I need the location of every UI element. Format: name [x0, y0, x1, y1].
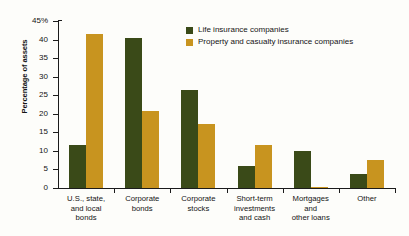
- x-axis-category-label: Corporatebonds: [110, 194, 174, 213]
- x-axis-category-label-line: Short-term: [223, 194, 287, 204]
- x-axis-separator-tick: [170, 189, 171, 193]
- bar-chart: Percentage of assets 45%4035302520151050…: [0, 0, 409, 236]
- y-axis-tick-label: 35: [39, 54, 48, 62]
- bar: [69, 145, 86, 188]
- bar: [142, 111, 159, 188]
- x-axis-category-label-line: Corporate: [166, 194, 230, 204]
- legend-swatch-icon: [186, 39, 193, 46]
- x-axis-category-label-line: U.S., state,: [54, 194, 118, 204]
- x-axis-category-label-line: bonds: [54, 213, 118, 223]
- bar-group: [69, 21, 103, 188]
- x-axis-endcap: [395, 189, 396, 193]
- x-axis-separator-tick: [114, 189, 115, 193]
- x-axis-category-label-line: and cash: [223, 213, 287, 223]
- legend-item: Life insurance companies: [186, 26, 353, 34]
- x-axis-category-label-line: and local: [54, 204, 118, 214]
- x-axis-category-label-line: investments: [223, 204, 287, 214]
- x-axis-category-label: Mortgagesandother loans: [279, 194, 343, 223]
- y-axis-title: Percentage of assets: [20, 17, 29, 137]
- bar: [350, 174, 367, 188]
- legend-item: Property and casualty insurance companie…: [186, 38, 353, 46]
- bar: [86, 34, 103, 188]
- x-axis-category-label-line: other loans: [279, 213, 343, 223]
- y-axis-tick-label: 10: [39, 147, 48, 155]
- x-axis-category-label-line: Mortgages: [279, 194, 343, 204]
- y-axis-tick-label: 15: [39, 128, 48, 136]
- bar: [367, 160, 384, 188]
- legend-item-label: Life insurance companies: [198, 26, 289, 34]
- x-axis-category-label: U.S., state,and localbonds: [54, 194, 118, 223]
- bar-group: [125, 21, 159, 188]
- bar: [238, 166, 255, 188]
- x-axis-category-label: Corporatestocks: [166, 194, 230, 213]
- bar: [311, 187, 328, 188]
- bar: [125, 38, 142, 188]
- bar: [255, 145, 272, 188]
- chart-legend: Life insurance companiesProperty and cas…: [186, 26, 353, 50]
- x-axis-separator-tick: [339, 189, 340, 193]
- bar: [198, 124, 215, 188]
- y-axis-tick-label: 20: [39, 110, 48, 118]
- y-axis-tick-label: 40: [39, 36, 48, 44]
- legend-swatch-icon: [186, 27, 193, 34]
- x-axis-separator-tick: [227, 189, 228, 193]
- x-axis-category-label: Short-terminvestmentsand cash: [223, 194, 287, 223]
- x-axis-category-label-line: stocks: [166, 204, 230, 214]
- y-axis-tick-label: 25: [39, 91, 48, 99]
- legend-item-label: Property and casualty insurance companie…: [198, 38, 353, 46]
- y-axis-tick-label: 5: [44, 165, 48, 173]
- x-axis-category-label-line: Other: [335, 194, 399, 204]
- bar: [294, 151, 311, 188]
- y-axis-tick: [53, 188, 58, 189]
- y-axis-tick-label: 30: [39, 73, 48, 81]
- bar-group: [350, 21, 384, 188]
- x-axis-category-label-line: bonds: [110, 204, 174, 214]
- bar: [181, 90, 198, 188]
- x-axis-category-label-line: and: [279, 204, 343, 214]
- y-axis-tick-label: 45%: [32, 17, 48, 25]
- x-axis-category-label: Other: [335, 194, 399, 204]
- y-axis-tick-label: 0: [44, 184, 48, 192]
- x-axis-separator-tick: [283, 189, 284, 193]
- x-axis-category-label-line: Corporate: [110, 194, 174, 204]
